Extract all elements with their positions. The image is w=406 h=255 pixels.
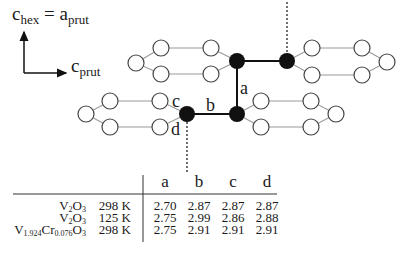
header-d: d: [250, 172, 284, 192]
axis-arrows: [24, 32, 66, 73]
value-d: 2.91: [250, 224, 284, 236]
value-a: 2.75: [148, 224, 182, 236]
bond-label-a: a: [240, 79, 248, 97]
header-b: b: [182, 172, 216, 192]
header-c: c: [216, 172, 250, 192]
table-body: V2O3 298 K 2.70 2.87 2.87 2.87 V2O3 125 …: [0, 200, 284, 236]
value-c: 2.91: [216, 224, 250, 236]
header-a: a: [148, 172, 182, 192]
table-header: a b c d: [148, 172, 288, 192]
bond-label-c: c: [172, 92, 180, 110]
value-b: 2.91: [182, 224, 216, 236]
bond-label-b: b: [206, 96, 215, 114]
bond-label-d: d: [171, 120, 180, 138]
compound-cell: V1.924Cr0.076O3: [0, 224, 86, 236]
table-row: V1.924Cr0.076O3 298 K 2.75 2.91 2.91 2.9…: [0, 224, 284, 236]
temperature-cell: 298 K: [86, 224, 131, 236]
